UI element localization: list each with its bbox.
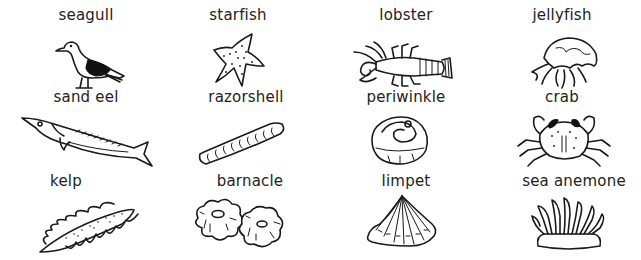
item-label: crab: [492, 88, 632, 106]
periwinkle-icon: [336, 106, 476, 172]
jellyfish-icon: [492, 24, 632, 90]
item-label: limpet: [336, 172, 476, 190]
sea-anemone-icon: [504, 190, 641, 256]
starfish-icon: [168, 24, 308, 90]
item-jellyfish: jellyfish: [492, 6, 632, 90]
seagull-icon: [16, 24, 156, 90]
item-barnacle: barnacle: [180, 172, 320, 256]
item-seagull: seagull: [16, 6, 156, 90]
item-lobster: lobster: [336, 6, 476, 90]
barnacle-icon: [180, 190, 320, 256]
item-label: jellyfish: [492, 6, 632, 24]
item-crab: crab: [492, 88, 632, 172]
limpet-icon: [336, 190, 476, 256]
razorshell-icon: [176, 106, 316, 172]
item-sand-eel: sand eel: [16, 88, 156, 172]
kelp-icon: [26, 190, 166, 256]
crab-icon: [492, 106, 632, 172]
item-razorshell: razorshell: [176, 88, 316, 172]
item-label: kelp: [26, 172, 106, 190]
item-label: barnacle: [180, 172, 320, 190]
item-label: periwinkle: [336, 88, 476, 106]
item-periwinkle: periwinkle: [336, 88, 476, 172]
item-label: lobster: [336, 6, 476, 24]
item-label: razorshell: [176, 88, 316, 106]
item-label: sea anemone: [504, 172, 641, 190]
item-label: starfish: [168, 6, 308, 24]
item-sea-anemone: sea anemone: [504, 172, 641, 256]
sand-eel-icon: [16, 106, 156, 172]
item-label: sand eel: [16, 88, 156, 106]
item-starfish: starfish: [168, 6, 308, 90]
item-label: seagull: [16, 6, 156, 24]
lobster-icon: [336, 24, 476, 90]
item-kelp: kelp: [26, 172, 166, 256]
item-limpet: limpet: [336, 172, 476, 256]
